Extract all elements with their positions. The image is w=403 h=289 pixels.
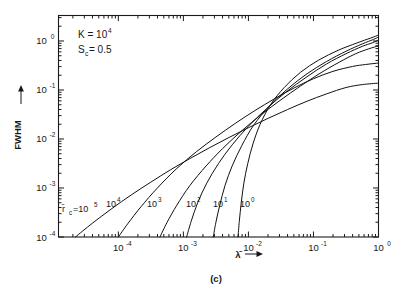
annotation-sc-value: = 0.5 <box>89 44 112 55</box>
curve-label-prefix-base: r̄ <box>61 204 65 214</box>
curve-label-exponent: 4 <box>117 196 121 203</box>
curve-label-base: 10 <box>213 199 223 209</box>
y-tick-label: 10 <box>36 182 47 193</box>
y-tick-exponent: -1 <box>50 82 56 89</box>
curve-label-base: 10 <box>240 199 250 209</box>
y-tick-label: 10 <box>36 84 47 95</box>
data-curves <box>75 35 378 237</box>
x-tick-label: 10 <box>178 242 189 253</box>
y-tick-exponent: -3 <box>50 180 56 187</box>
y-tick-label: 10 <box>36 133 47 144</box>
annotation-Sc: S c = 0.5 <box>78 44 112 57</box>
y-tick-labels: 10010-110-210-310-4 <box>36 33 56 242</box>
curve-label-base: 10 <box>186 199 196 209</box>
x-tick-labels: 10-410-310-210-1100 <box>113 240 391 253</box>
curve-label-exponent: 2 <box>197 196 201 203</box>
y-tick-label: 10 <box>36 35 47 46</box>
x-tick-exponent: -1 <box>321 240 327 247</box>
annotation-k-exponent: 4 <box>108 27 112 34</box>
x-tick-label: 10 <box>113 242 124 253</box>
x-axis-arrowhead <box>257 251 264 257</box>
x-axis-title: λ̄ <box>235 249 242 260</box>
x-tick-exponent: -2 <box>256 240 262 247</box>
curve-label-exponent: 0 <box>251 196 255 203</box>
y-tick-exponent: 0 <box>51 33 55 40</box>
curve-labels-others: 104103102101100 <box>106 196 255 209</box>
x-tick-exponent: -4 <box>126 240 132 247</box>
x-tick-exponent: 0 <box>387 240 391 247</box>
y-axis-title: FWHM <box>12 120 23 150</box>
annotation-K: K = 10 4 <box>78 27 112 40</box>
curve-label-prefix-subscript: c <box>69 209 72 216</box>
curve-label-exponent: 3 <box>158 196 162 203</box>
y-tick-label: 10 <box>36 232 47 243</box>
curve-label-r5: r̄ c =10 5 <box>61 201 98 216</box>
curve-label-base: 10 <box>106 199 116 209</box>
curve-label-base: 10 <box>147 199 157 209</box>
x-tick-label: 10 <box>243 242 254 253</box>
x-tick-exponent: -3 <box>191 240 197 247</box>
curve-label-prefix-eq: =10 <box>73 204 88 214</box>
annotation-sc-base: S <box>78 44 85 55</box>
y-axis-arrowhead <box>18 85 24 92</box>
x-tick-label: 10 <box>373 242 384 253</box>
chart-svg: 10-410-310-210-1100 10010-110-210-310-4 … <box>0 0 403 289</box>
curve-label-exponent: 1 <box>224 196 228 203</box>
x-tick-label: 10 <box>308 242 319 253</box>
annotation-k-label: K = 10 <box>78 29 108 40</box>
y-tick-exponent: -2 <box>50 131 56 138</box>
y-tick-exponent: -4 <box>50 230 56 237</box>
curve-label-prefix-exponent: 5 <box>94 201 98 208</box>
figure-caption: (c) <box>210 273 222 284</box>
curve-series-0 <box>75 83 378 237</box>
y-axis-title-group: FWHM <box>12 85 24 150</box>
figure-container: 10-410-310-210-1100 10010-110-210-310-4 … <box>0 0 403 289</box>
